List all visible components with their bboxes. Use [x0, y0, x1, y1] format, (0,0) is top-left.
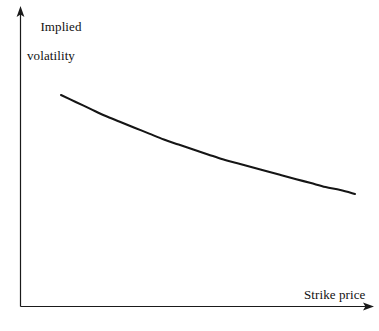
y-axis-label-line1: Implied: [40, 19, 81, 34]
chart-figure: Implied volatility Strike price: [0, 0, 379, 331]
implied-volatility-curve: [61, 95, 355, 194]
x-axis-label: Strike price: [304, 288, 365, 303]
y-axis-label: Implied volatility: [27, 5, 82, 92]
y-axis-label-line2: volatility: [27, 49, 82, 64]
